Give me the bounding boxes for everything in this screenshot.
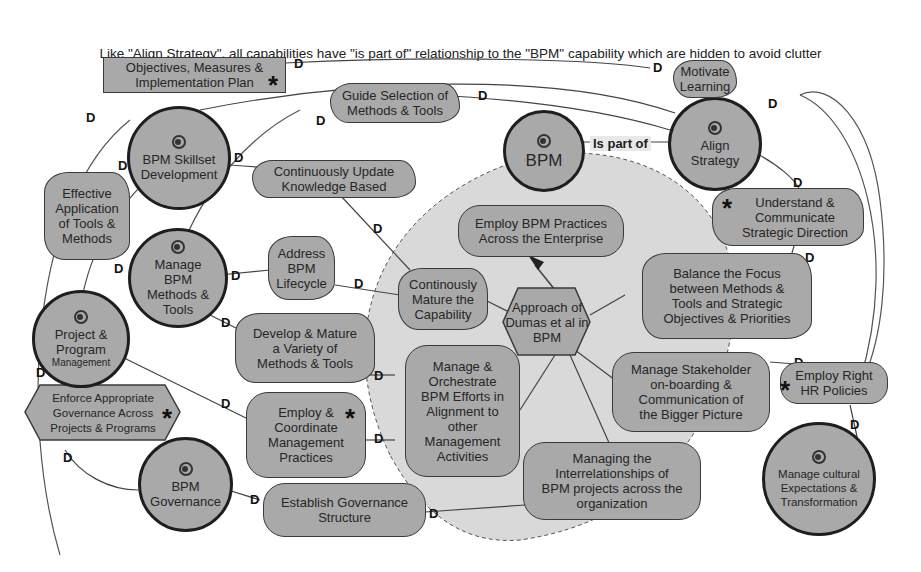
node-label: Enforce Appropriate Governance Across Pr…: [50, 391, 155, 436]
swirl-icon: [536, 133, 552, 149]
node-label: Objectives, Measures & Implementation Pl…: [126, 60, 263, 90]
node-label: Employ BPM Practices Across the Enterpri…: [475, 216, 607, 246]
capability-manage-methods[interactable]: Manage BPM Methods & Tools: [128, 228, 228, 328]
node-label: Continously Mature the Capability: [409, 277, 477, 322]
swirl-icon: [707, 120, 723, 136]
node-continuously-update[interactable]: Continuously Update Knowledge Based: [252, 160, 416, 198]
node-label: Motivate Learning: [680, 64, 731, 94]
capability-label: Align Strategy: [691, 138, 739, 168]
capability-label: Manage cultural Expectations & Transform…: [778, 467, 860, 509]
capability-project-program[interactable]: Project & Program Management: [32, 290, 130, 388]
node-understand[interactable]: Understand & Communicate Strategic Direc…: [712, 188, 864, 246]
node-label: Balance the Focus between Methods & Tool…: [663, 266, 790, 326]
node-objectives[interactable]: Objectives, Measures & Implementation Pl…: [103, 57, 286, 93]
d-connector-icon: D: [653, 60, 662, 75]
swirl-icon: [170, 239, 186, 255]
capability-skillset[interactable]: BPM Skillset Development: [127, 106, 231, 210]
node-label: Establish Governance Structure: [281, 495, 408, 525]
capability-diagram: Like "Align Strategy", all capabilities …: [0, 0, 921, 572]
node-label: Manage Stakeholder on-boarding & Communi…: [631, 362, 751, 422]
star-marker: *: [722, 198, 732, 218]
node-address-lifecycle[interactable]: Address BPM Lifecycle: [268, 236, 335, 300]
d-connector-icon: D: [850, 417, 859, 432]
d-connector-icon: D: [221, 315, 230, 330]
node-label: Understand & Communicate Strategic Direc…: [728, 195, 848, 240]
d-connector-icon: D: [478, 88, 487, 103]
node-enforce-governance[interactable]: Enforce Appropriate Governance Across Pr…: [28, 386, 178, 440]
capability-sublabel: Management: [52, 357, 110, 369]
swirl-icon: [171, 134, 187, 150]
d-connector-icon: D: [63, 450, 72, 465]
d-connector-icon: D: [354, 276, 363, 291]
capability-bpm[interactable]: BPM: [503, 110, 585, 192]
node-label: Employ Right HR Policies: [795, 368, 872, 398]
capability-label: BPM Skillset Development: [141, 152, 218, 182]
d-connector-icon: D: [294, 56, 303, 71]
d-connector-icon: D: [374, 368, 383, 383]
star-marker: *: [268, 75, 278, 95]
star-marker: *: [780, 380, 790, 400]
d-connector-icon: D: [114, 261, 123, 276]
node-develop-mature[interactable]: Develop & Mature a Variety of Methods & …: [235, 313, 375, 383]
d-connector-icon: D: [118, 158, 127, 173]
node-label: Employ & Coordinate Management Practices: [268, 405, 344, 465]
node-label: Continuously Update Knowledge Based: [274, 164, 395, 194]
node-guide-selection[interactable]: Guide Selection of Methods & Tools: [330, 83, 460, 123]
capability-governance[interactable]: BPM Governance: [138, 437, 233, 532]
capability-label: BPM Governance: [150, 479, 221, 509]
capability-label: Project & Program: [55, 327, 108, 357]
node-manage-orchestrate[interactable]: Manage & Orchestrate BPM Efforts in Alig…: [405, 345, 520, 477]
capability-label: BPM: [526, 151, 563, 170]
node-managing-interrelationships[interactable]: Managing the Interrelationships of BPM p…: [523, 442, 701, 520]
node-label: Manage & Orchestrate BPM Efforts in Alig…: [421, 359, 504, 464]
d-connector-icon: D: [234, 150, 243, 165]
capability-label: Manage BPM Methods & Tools: [147, 257, 209, 317]
node-label: Develop & Mature a Variety of Methods & …: [253, 326, 357, 371]
node-employ-hr[interactable]: Employ Right HR Policies: [780, 362, 888, 404]
node-approach-dumas[interactable]: Approach of Dumas et al in BPM: [505, 290, 589, 354]
node-label: Address BPM Lifecycle: [276, 246, 327, 291]
star-marker: *: [162, 408, 172, 428]
capability-cultural[interactable]: Manage cultural Expectations & Transform…: [762, 422, 876, 536]
node-continously-mature[interactable]: Continously Mature the Capability: [398, 268, 488, 330]
capability-align-strategy[interactable]: Align Strategy: [668, 97, 762, 191]
node-label: Effective Application of Tools & Methods: [55, 186, 119, 246]
node-motivate-learning[interactable]: Motivate Learning: [673, 60, 737, 98]
node-employ-bpm-practices[interactable]: Employ BPM Practices Across the Enterpri…: [458, 205, 624, 257]
star-marker: *: [345, 408, 355, 428]
edge-objectives-motivate: [285, 59, 650, 68]
node-manage-stakeholder[interactable]: Manage Stakeholder on-boarding & Communi…: [612, 352, 770, 432]
node-label: Managing the Interrelationships of BPM p…: [542, 451, 683, 511]
d-connector-icon: D: [86, 110, 95, 125]
d-connector-icon: D: [316, 113, 325, 128]
swirl-icon: [811, 449, 827, 465]
d-connector-icon: D: [374, 431, 383, 446]
node-establish-governance[interactable]: Establish Governance Structure: [263, 483, 426, 537]
edge-enforce-governance: [65, 450, 138, 490]
node-label: Approach of Dumas et al in BPM: [505, 300, 588, 345]
node-balance-focus[interactable]: Balance the Focus between Methods & Tool…: [642, 253, 812, 339]
d-connector-icon: D: [429, 506, 438, 521]
swirl-icon: [73, 309, 89, 325]
d-connector-icon: D: [768, 96, 777, 111]
d-connector-icon: D: [250, 492, 259, 507]
d-connector-icon: D: [231, 268, 240, 283]
node-effective-application[interactable]: Effective Application of Tools & Methods: [44, 172, 130, 260]
is-part-of-label: Is part of: [590, 136, 651, 151]
swirl-icon: [178, 461, 194, 477]
node-label: Guide Selection of Methods & Tools: [342, 88, 448, 118]
d-connector-icon: D: [221, 396, 230, 411]
d-connector-icon: D: [373, 221, 382, 236]
